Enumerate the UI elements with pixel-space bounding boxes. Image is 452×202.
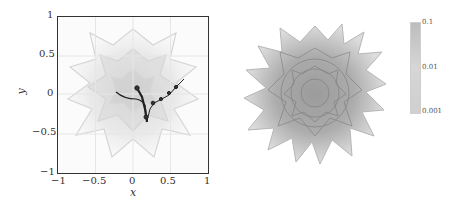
x-tick-label: −0.5 (82, 175, 106, 186)
y-tick-label: −1 (40, 166, 55, 177)
y-axis-label: y (15, 88, 28, 94)
left-plot-canvas (58, 17, 208, 173)
y-tick-label: −0.5 (32, 126, 56, 137)
y-tick-label: 1 (47, 9, 53, 20)
y-tick-label: 0 (47, 87, 53, 98)
colorbar-tick-label: 0.1 (422, 18, 433, 26)
right-plot-canvas (240, 18, 390, 168)
left-plot (57, 16, 209, 174)
x-tick-label: 1 (204, 175, 210, 186)
right-plot (240, 18, 390, 168)
colorbar-tick-label: 0.001 (422, 107, 442, 115)
colorbar (410, 22, 421, 114)
colorbar-tick-label: 0.01 (422, 63, 438, 71)
x-tick-label: 0.5 (160, 175, 176, 186)
x-tick-label: 0 (129, 175, 135, 186)
x-axis-label: x (130, 186, 136, 199)
y-tick-label: 0.5 (39, 48, 55, 59)
